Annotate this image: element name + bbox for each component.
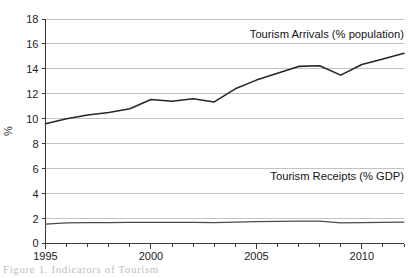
y-tick-label-16: 16 xyxy=(26,38,38,50)
x-tick-label-2005: 2005 xyxy=(244,250,268,262)
x-tick-label-2000: 2000 xyxy=(139,250,163,262)
series-annotation-arrivals: Tourism Arrivals (% population) xyxy=(250,28,404,40)
y-tick-label-6: 6 xyxy=(32,163,38,175)
y-axis-title: % xyxy=(2,126,14,136)
y-tick-label-18: 18 xyxy=(26,13,38,25)
y-tick-label-12: 12 xyxy=(26,88,38,100)
x-tick-label-2010: 2010 xyxy=(350,250,374,262)
y-tick-label-14: 14 xyxy=(26,63,38,75)
y-tick-label-0: 0 xyxy=(32,237,38,249)
y-tick-label-8: 8 xyxy=(32,138,38,150)
x-tick-label-1995: 1995 xyxy=(33,250,57,262)
y-tick-label-10: 10 xyxy=(26,113,38,125)
tourism-line-chart: 024681012141618 1995200020052010 % Touri… xyxy=(0,0,417,262)
y-tick-label-4: 4 xyxy=(32,188,38,200)
figure-caption: Figure 1. Indicators of Tourism xyxy=(3,263,413,278)
series-annotation-receipts: Tourism Receipts (% GDP) xyxy=(270,170,404,182)
y-tick-label-2: 2 xyxy=(32,213,38,225)
tourism-indicators-figure: 024681012141618 1995200020052010 % Touri… xyxy=(0,0,417,278)
